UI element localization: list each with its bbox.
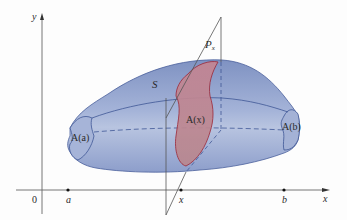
b-label: b xyxy=(282,194,287,205)
right-end-label: A(b) xyxy=(282,121,301,133)
cross-section-label: A(x) xyxy=(186,114,205,126)
diagram-canvas: y x 0 a x b S Px A(x) A(a) A(b) xyxy=(0,0,347,220)
x-point-label: x xyxy=(178,194,184,205)
x-axis-arrow-icon xyxy=(322,188,330,192)
point-b xyxy=(282,188,285,191)
y-axis xyxy=(40,13,44,214)
y-axis-arrow-icon xyxy=(40,13,44,20)
solid-label: S xyxy=(152,78,158,90)
point-a xyxy=(66,188,69,191)
x-axis-label: x xyxy=(322,193,328,204)
point-x xyxy=(179,188,182,191)
solid-diagram: y x 0 a x b S Px A(x) A(a) A(b) xyxy=(0,0,347,220)
y-axis-label: y xyxy=(31,11,37,22)
a-label: a xyxy=(66,194,71,205)
left-end-label: A(a) xyxy=(71,132,89,144)
plane-label: Px xyxy=(204,38,216,52)
origin-label: 0 xyxy=(32,194,37,205)
